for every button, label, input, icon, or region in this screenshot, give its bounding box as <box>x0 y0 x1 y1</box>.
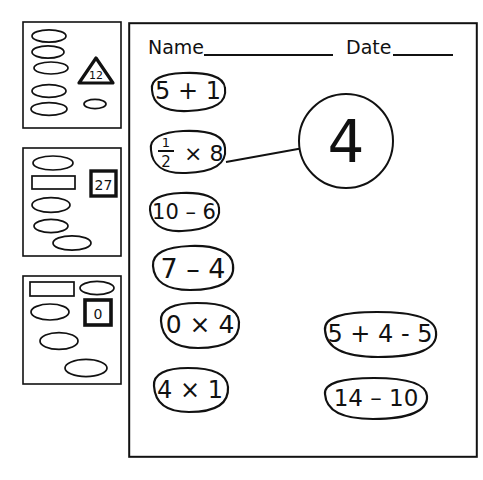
answer-circle[interactable]: 4 <box>299 94 393 188</box>
worksheet-graphic: Name Date 5 + 1 1 2 × 8 10 – 6 <box>128 22 478 458</box>
thumbnail-panel-2[interactable]: 27 <box>22 147 122 257</box>
expression-text: 5 + 1 <box>155 77 221 105</box>
expression-text: 14 – 10 <box>334 385 419 411</box>
expression-text: 7 – 4 <box>160 253 225 284</box>
worksheet-page[interactable]: Name Date 5 + 1 1 2 × 8 10 – 6 <box>128 22 478 458</box>
fraction-numerator: 1 <box>162 135 170 150</box>
panel-2-graphic: 27 <box>22 147 122 257</box>
thumbnail-panel-3[interactable]: 0 <box>22 275 122 385</box>
expression-text: 10 – 6 <box>152 200 216 224</box>
worksheet-scan-canvas: 12 27 0 <box>0 0 483 480</box>
panel-1-badge-value: 12 <box>89 69 103 82</box>
thumbnail-panel-1[interactable]: 12 <box>22 21 122 129</box>
panel-1-graphic: 12 <box>22 21 122 129</box>
expression-text: 4 × 1 <box>157 376 223 404</box>
fraction-denominator: 2 <box>161 153 171 171</box>
panel-3-graphic: 0 <box>22 275 122 385</box>
answer-value: 4 <box>328 108 365 176</box>
expression-text: 5 + 4 - 5 <box>327 320 432 348</box>
name-label: Name <box>148 36 204 58</box>
fraction-rest: × 8 <box>184 141 223 166</box>
expression-text: 0 × 4 <box>166 310 235 339</box>
panel-2-badge-value: 27 <box>95 177 113 193</box>
expression-bubble-7-minus-4[interactable]: 7 – 4 <box>153 246 233 290</box>
date-label: Date <box>346 36 391 58</box>
panel-3-badge-value: 0 <box>94 306 103 322</box>
